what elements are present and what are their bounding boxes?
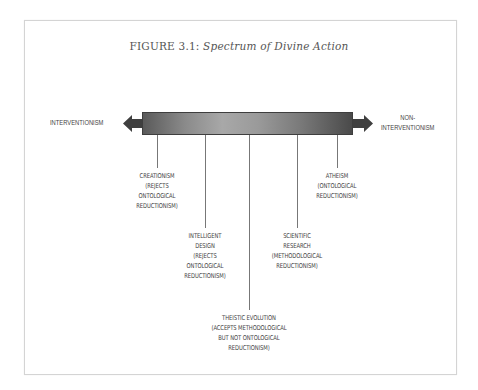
label-line: REDUCTIONISM) <box>170 271 240 281</box>
label-line: BUT NOT ONTOLOGICAL <box>196 333 302 343</box>
figure-title: FIGURE 3.1: Spectrum of Divine Action <box>0 40 478 52</box>
label-line: REDUCTIONISM) <box>122 201 192 211</box>
tick-atheism <box>337 135 338 168</box>
spectrum-bar <box>142 112 353 135</box>
label-line: INTELLIGENT <box>170 231 240 241</box>
label-line: REDUCTIONISM) <box>262 261 332 271</box>
label-line: SCIENTIFIC <box>262 231 332 241</box>
right-arrow-icon <box>352 113 373 134</box>
left-end-label: INTERVENTIONISM <box>50 118 103 128</box>
right-end-label-line2: INTERVENTIONISM <box>381 123 434 133</box>
label-line: DESIGN <box>170 241 240 251</box>
label-line: (ACCEPTS METHODOLOGICAL <box>196 323 302 333</box>
figure-title-italic: Spectrum of Divine Action <box>203 40 348 52</box>
label-line: (ONTOLOGICAL <box>302 181 372 191</box>
tick-creationism <box>157 135 158 168</box>
figure-canvas: FIGURE 3.1: Spectrum of Divine Action IN… <box>0 0 478 390</box>
left-arrow-icon <box>123 113 143 134</box>
label-atheism: ATHEISM (ONTOLOGICAL REDUCTIONISM) <box>302 171 372 201</box>
label-line: REDUCTIONISM) <box>196 343 302 353</box>
label-line: REDUCTIONISM) <box>302 191 372 201</box>
label-intelligent-design: INTELLIGENT DESIGN (REJECTS ONTOLOGICAL … <box>170 231 240 281</box>
label-line: (REJECTS <box>170 251 240 261</box>
label-scientific-research: SCIENTIFIC RESEARCH (METHODOLOGICAL REDU… <box>262 231 332 271</box>
label-line: ATHEISM <box>302 171 372 181</box>
label-line: ONTOLOGICAL <box>122 191 192 201</box>
label-creationism: CREATIONISM (REJECTS ONTOLOGICAL REDUCTI… <box>122 171 192 211</box>
right-end-label: NON- INTERVENTIONISM <box>381 113 434 133</box>
label-line: (REJECTS <box>122 181 192 191</box>
figure-title-prefix: FIGURE 3.1: <box>130 40 200 52</box>
right-end-label-line1: NON- <box>381 113 434 123</box>
tick-scientific-research <box>297 135 298 228</box>
tick-intelligent-design <box>205 135 206 228</box>
tick-theistic-evolution <box>249 135 250 310</box>
label-line: (METHODOLOGICAL <box>262 251 332 261</box>
label-line: ONTOLOGICAL <box>170 261 240 271</box>
label-line: CREATIONISM <box>122 171 192 181</box>
label-theistic-evolution: THEISTIC EVOLUTION (ACCEPTS METHODOLOGIC… <box>196 313 302 353</box>
label-line: THEISTIC EVOLUTION <box>196 313 302 323</box>
label-line: RESEARCH <box>262 241 332 251</box>
